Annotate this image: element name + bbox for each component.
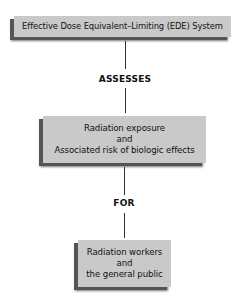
edge-label-for: FOR [74, 198, 174, 208]
connector-top-upper [125, 41, 126, 69]
connector-mid-upper [124, 167, 125, 195]
node-radiation-exposure: Radiation exposure and Associated risk o… [43, 116, 206, 163]
node-workers-public-line-3: the general public [86, 269, 162, 280]
connector-mid-lower [124, 213, 125, 238]
node-ede-system-text: Effective Dose Equivalent–Limiting (EDE)… [22, 21, 223, 32]
node-workers-public: Radiation workers and the general public [78, 240, 171, 287]
node-workers-public-line-1: Radiation workers [87, 247, 162, 258]
node-radiation-exposure-line-1: Radiation exposure [84, 123, 165, 134]
node-radiation-exposure-line-3: Associated risk of biologic effects [54, 145, 194, 156]
node-workers-public-line-2: and [117, 258, 133, 269]
node-ede-system: Effective Dose Equivalent–Limiting (EDE)… [14, 16, 231, 37]
edge-label-assesses: ASSESSES [75, 74, 175, 84]
node-radiation-exposure-line-2: and [117, 134, 133, 145]
connector-top-lower [125, 88, 126, 113]
